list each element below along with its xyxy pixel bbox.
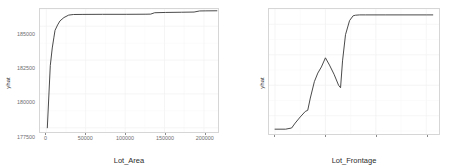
x-tick-label: 100000: [116, 135, 134, 141]
x-tick-label: 50000: [78, 135, 93, 141]
x-tick-label: 150000: [156, 135, 174, 141]
x-tickmark: [427, 135, 428, 137]
x-tickmark: [376, 135, 377, 137]
y-tick-label: 185000: [17, 31, 35, 37]
lot-frontage-panel: yhat 182500 182000 181500 181000: [230, 0, 459, 166]
x-tick-label: 200000: [196, 135, 214, 141]
y-tick-label: 182500: [17, 65, 35, 71]
lot-frontage-plot-svg: [269, 9, 439, 134]
plot-area-left: [39, 8, 219, 133]
x-axis-title-left: Lot_Area: [39, 156, 219, 165]
pdp-line-lot-area: [47, 11, 217, 128]
x-axis-title-right: Lot_Frontage: [268, 156, 440, 165]
y-tick-labels-left: 185000 182500 180000 177500: [3, 8, 37, 134]
y-tick-label: 180000: [17, 99, 35, 105]
pdp-figure: yhat 185000 182500 180000 177500: [0, 0, 459, 166]
gridlines-minor-left: [40, 9, 218, 132]
gridlines-right: [269, 9, 439, 134]
x-tickmark: [325, 135, 326, 137]
x-tick-label: 0: [44, 135, 47, 141]
y-tick-label: 177500: [17, 134, 35, 140]
x-tickmark: [274, 135, 275, 137]
plot-area-right: [268, 8, 440, 135]
pdp-line-lot-frontage: [275, 15, 433, 129]
lot-area-plot-svg: [40, 9, 218, 132]
gridlines-minor-right: [269, 9, 439, 134]
lot-area-panel: yhat 185000 182500 180000 177500: [0, 0, 230, 166]
gridlines-left: [40, 9, 218, 132]
x-tick-labels-left: 0 50000 100000 150000 200000: [39, 135, 219, 147]
